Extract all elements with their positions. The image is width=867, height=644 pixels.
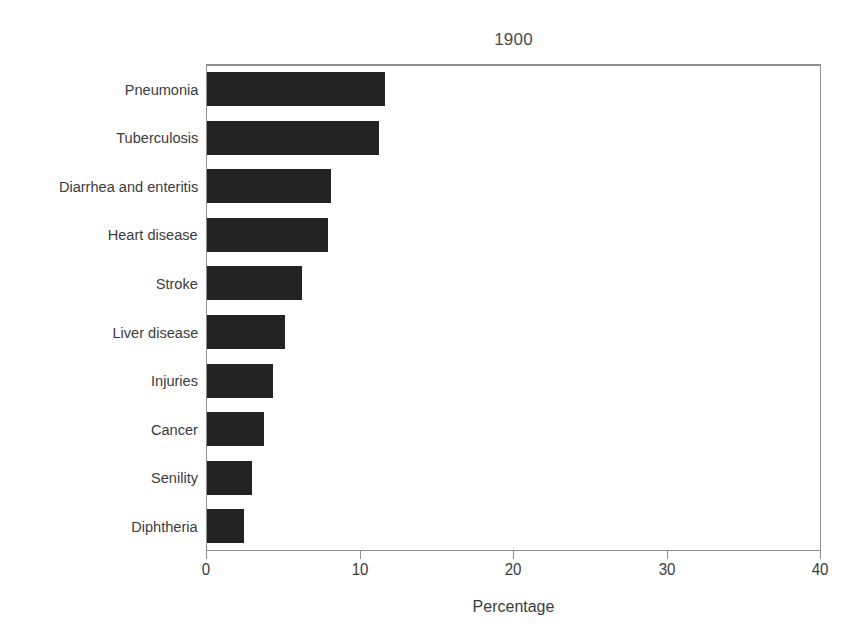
bar-row	[207, 162, 821, 211]
bar	[207, 218, 328, 252]
bar-row	[207, 259, 821, 308]
bar-row	[207, 502, 821, 551]
bar-row	[207, 308, 821, 357]
x-axis-tick-label: 0	[202, 562, 210, 578]
bar	[207, 121, 379, 155]
y-axis-label-row: Stroke	[0, 259, 198, 308]
y-axis-label-row: Heart disease	[0, 211, 198, 260]
bar-row	[207, 211, 821, 260]
bars-layer	[207, 65, 821, 551]
y-axis-label-row: Cancer	[0, 405, 198, 454]
x-axis-tick-label: 30	[658, 562, 675, 578]
bar	[207, 266, 302, 300]
bar-row	[207, 65, 821, 114]
x-axis-tick-mark	[360, 551, 361, 559]
y-axis-label: Senility	[151, 470, 198, 486]
x-axis-tick-mark	[820, 551, 821, 559]
y-axis-label-row: Diphtheria	[0, 502, 198, 551]
x-axis-tick-label: 40	[812, 562, 829, 578]
y-axis-label-row: Pneumonia	[0, 65, 198, 114]
x-axis-tick-mark	[206, 551, 207, 559]
y-axis-label: Stroke	[156, 276, 198, 292]
y-axis-category-labels: PneumoniaTuberculosisDiarrhea and enteri…	[0, 65, 198, 551]
y-axis-label: Cancer	[151, 422, 198, 438]
y-axis-label: Liver disease	[112, 325, 198, 341]
x-axis-tick-label: 20	[505, 562, 522, 578]
bar	[207, 364, 273, 398]
y-axis-label: Pneumonia	[124, 82, 198, 98]
x-axis-title: Percentage	[206, 598, 821, 616]
chart-title: 1900	[206, 30, 821, 50]
y-axis-label: Heart disease	[108, 227, 198, 243]
bar-chart-figure: 1900 PneumoniaTuberculosisDiarrhea and e…	[0, 0, 867, 644]
bar-row	[207, 357, 821, 406]
x-axis-tick-label: 10	[351, 562, 368, 578]
bar-row	[207, 114, 821, 163]
bar	[207, 169, 331, 203]
bar	[207, 509, 244, 543]
y-axis-label: Tuberculosis	[116, 130, 198, 146]
bar	[207, 315, 285, 349]
bar-row	[207, 454, 821, 503]
y-axis-label-row: Senility	[0, 454, 198, 503]
y-axis-label-row: Liver disease	[0, 308, 198, 357]
bar	[207, 461, 252, 495]
bar-row	[207, 405, 821, 454]
x-axis-ticks: 010203040	[206, 551, 821, 601]
y-axis-label-row: Diarrhea and enteritis	[0, 162, 198, 211]
y-axis-label-row: Tuberculosis	[0, 114, 198, 163]
bar	[207, 72, 385, 106]
y-axis-label: Diarrhea and enteritis	[59, 179, 198, 195]
y-axis-label: Diphtheria	[132, 519, 198, 535]
x-axis-tick-mark	[667, 551, 668, 559]
bar	[207, 412, 264, 446]
x-axis-tick-mark	[513, 551, 514, 559]
y-axis-label: Injuries	[151, 373, 198, 389]
y-axis-label-row: Injuries	[0, 357, 198, 406]
